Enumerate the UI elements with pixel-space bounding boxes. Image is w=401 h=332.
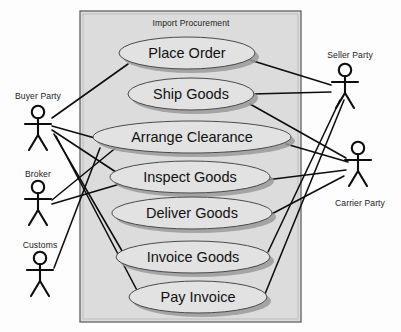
actor-head-icon	[34, 252, 46, 264]
actor-head-icon	[339, 64, 351, 76]
uml-canvas: Import Procurement Place Order	[0, 0, 401, 332]
use-case-label: Ship Goods	[153, 86, 229, 102]
actor-customs[interactable]: Customs	[23, 240, 58, 296]
actor-leg-left-icon	[349, 171, 358, 186]
use-case-invoice-goods[interactable]: Invoice Goods	[116, 241, 274, 277]
actor-head-icon	[32, 106, 44, 118]
use-case-diagram: Import Procurement Place Order	[0, 0, 401, 332]
actor-broker[interactable]: Broker	[25, 169, 51, 225]
use-case-label: Deliver Goods	[146, 205, 238, 221]
use-case-label: Inspect Goods	[143, 169, 237, 185]
actor-leg-left-icon	[29, 135, 38, 150]
use-case-inspect-goods[interactable]: Inspect Goods	[110, 161, 274, 197]
use-case-deliver-goods[interactable]: Deliver Goods	[112, 197, 276, 233]
use-case-arrange-clearance[interactable]: Arrange Clearance	[93, 121, 295, 157]
use-case-label: Arrange Clearance	[131, 129, 253, 145]
actor-leg-right-icon	[345, 93, 354, 108]
actor-buyer-party[interactable]: Buyer Party	[15, 91, 62, 150]
actor-leg-right-icon	[38, 135, 47, 150]
actor-label: Carrier Party	[335, 198, 386, 208]
actor-leg-left-icon	[29, 210, 38, 225]
actor-head-icon	[352, 142, 364, 154]
actor-head-icon	[32, 181, 44, 193]
actor-seller-party[interactable]: Seller Party	[327, 50, 373, 108]
system-boundary-title: Import Procurement	[153, 18, 230, 28]
actor-leg-left-icon	[31, 281, 40, 296]
use-case-label: Invoice Goods	[147, 249, 240, 265]
actor-carrier-party[interactable]: Carrier Party	[335, 142, 386, 208]
actor-leg-right-icon	[38, 210, 47, 225]
actor-label: Buyer Party	[15, 91, 62, 101]
use-case-label: Pay Invoice	[161, 289, 236, 305]
actor-leg-right-icon	[40, 281, 49, 296]
actor-label: Broker	[25, 169, 51, 179]
use-case-label: Place Order	[148, 45, 226, 61]
actor-label: Seller Party	[327, 50, 373, 60]
actor-label: Customs	[23, 240, 58, 250]
actor-leg-right-icon	[358, 171, 367, 186]
